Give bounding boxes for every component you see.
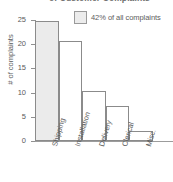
chart-title: of Customer Complaints: [26, 0, 173, 3]
y-tick-label: 25: [18, 15, 26, 24]
y-tick-label: 10: [18, 88, 26, 97]
y-axis-title: # of complaints: [6, 20, 15, 100]
y-tick: 0: [31, 141, 35, 142]
chart-screenshot: of Customer Complaints 42% of all compla…: [0, 0, 173, 182]
y-tick-label: 5: [22, 112, 26, 121]
bar: [35, 21, 59, 141]
y-tick-label: 0: [22, 136, 26, 145]
y-tick-label: 20: [18, 39, 26, 48]
plot-area: 0510152025 ShippingInstallationDeliveryC…: [35, 16, 173, 142]
y-tick-label: 15: [18, 63, 26, 72]
